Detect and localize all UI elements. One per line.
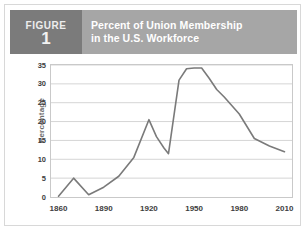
y-tick-label: 20	[28, 118, 46, 125]
figure-number-badge: FIGURE 1	[10, 10, 82, 54]
y-tick-label: 0	[28, 194, 46, 201]
x-axis-tick-labels: 186018901920195019802010	[50, 202, 297, 220]
y-tick-label: 10	[28, 156, 46, 163]
chart-region: Percentage 05101520253035 18601890192019…	[10, 56, 297, 221]
x-tick-label: 2010	[268, 204, 302, 213]
x-tick-label: 1950	[177, 204, 211, 213]
y-tick-label: 35	[28, 62, 46, 69]
line-chart-svg	[51, 65, 292, 197]
x-tick-label: 1920	[132, 204, 166, 213]
gridlines	[51, 65, 292, 178]
y-tick-label: 30	[28, 80, 46, 87]
y-tick-label: 25	[28, 99, 46, 106]
figure-header: FIGURE 1 Percent of Union Membership in …	[10, 10, 297, 54]
x-tick-label: 1860	[42, 204, 76, 213]
figure-title-line-one: Percent of Union Membership	[91, 19, 297, 33]
y-tick-label: 5	[28, 175, 46, 182]
y-axis-tick-labels: 05101520253035	[26, 56, 46, 221]
figure-number: 1	[41, 31, 50, 47]
data-line-union-membership	[59, 68, 285, 196]
y-tick-label: 15	[28, 137, 46, 144]
x-tick-label: 1980	[222, 204, 256, 213]
x-tick-label: 1890	[87, 204, 121, 213]
plot-area	[50, 64, 293, 198]
figure-title-line-two: in the U.S. Workforce	[91, 32, 297, 46]
figure-title: Percent of Union Membership in the U.S. …	[82, 10, 297, 54]
figure-card: FIGURE 1 Percent of Union Membership in …	[4, 4, 301, 226]
